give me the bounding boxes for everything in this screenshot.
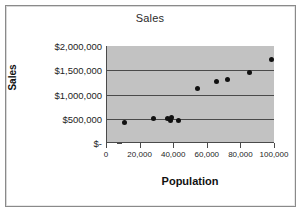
y-axis-tick-label: $- <box>94 138 102 149</box>
x-axis-tick <box>240 143 241 148</box>
x-axis-tick-label: 40,000 <box>161 150 185 159</box>
gridline <box>107 119 274 120</box>
data-point <box>195 86 200 91</box>
gridline <box>107 95 274 96</box>
y-axis-tick <box>117 143 122 144</box>
plot-area <box>106 46 274 143</box>
data-point <box>247 70 252 75</box>
y-axis-tick-label: $2,000,000 <box>54 41 102 52</box>
x-axis-tick <box>173 143 174 148</box>
x-axis-tick <box>106 143 107 148</box>
x-axis-tick <box>140 143 141 148</box>
x-axis-tick-label: 60,000 <box>195 150 219 159</box>
y-axis-tick-label: $500,000 <box>62 113 102 124</box>
x-axis-tick <box>207 143 208 148</box>
x-axis-tick <box>274 143 275 148</box>
chart-figure: Sales Sales $-$500,000$1,000,000$1,500,0… <box>0 0 301 212</box>
data-point <box>122 120 127 125</box>
data-point <box>176 118 181 123</box>
x-axis-title: Population <box>106 175 274 187</box>
y-axis-labels: $-$500,000$1,000,000$1,500,000$2,000,000 <box>16 0 102 212</box>
x-axis-tick-label: 100,000 <box>260 150 289 159</box>
y-axis-tick-label: $1,000,000 <box>54 89 102 100</box>
x-axis-tick-label: 20,000 <box>127 150 151 159</box>
data-point <box>269 57 274 62</box>
plot-inner <box>107 46 274 142</box>
data-point <box>225 77 230 82</box>
x-axis-tick-label: 80,000 <box>228 150 252 159</box>
data-point <box>151 116 156 121</box>
data-point <box>214 79 219 84</box>
y-axis-tick-label: $1,500,000 <box>54 65 102 76</box>
x-axis-tick-label: 0 <box>104 150 108 159</box>
